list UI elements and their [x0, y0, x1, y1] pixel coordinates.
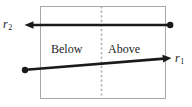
ray-r2-start-dot: [167, 22, 173, 28]
ray-label-r1-subscript: 1: [180, 57, 184, 66]
ray-r2: [25, 21, 174, 29]
region-label-above: Above: [108, 43, 140, 55]
ray-label-r1-base: r: [175, 51, 180, 65]
ray-label-r2-subscript: 2: [8, 23, 12, 32]
ray-r1-arrowhead-icon: [162, 55, 171, 63]
ray-label-r1: r1: [175, 52, 184, 64]
ray-above-below-diagram: Below Above r2 r1: [0, 0, 192, 107]
ray-r1-line: [26, 59, 164, 70]
ray-r1-start-dot: [22, 67, 28, 73]
ray-r2-arrowhead-icon: [25, 21, 34, 29]
ray-label-r2: r2: [3, 18, 12, 30]
region-label-below: Below: [51, 43, 82, 55]
diagram-canvas: [0, 0, 192, 107]
ray-label-r2-base: r: [3, 17, 8, 31]
ray-r1: [22, 55, 172, 73]
